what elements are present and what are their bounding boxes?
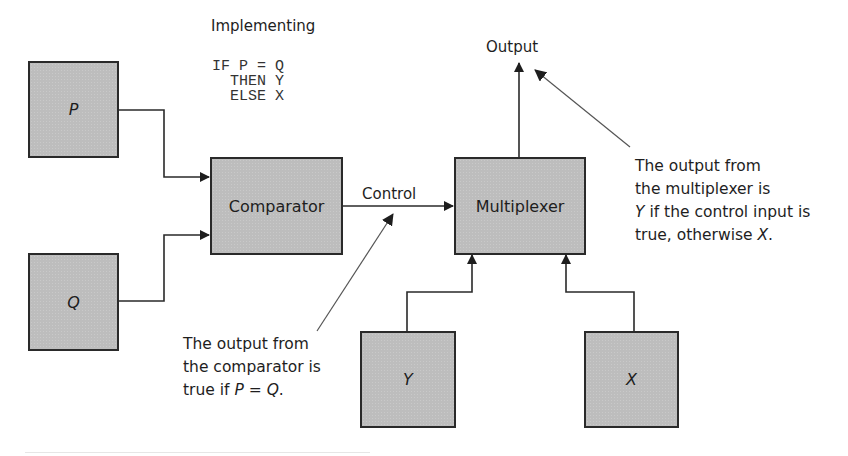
bottom-rule	[25, 452, 370, 453]
input-y-label: Y	[403, 370, 413, 389]
control-signal-label: Control	[362, 185, 416, 203]
pseudocode-line-2: THEN Y	[212, 74, 284, 89]
input-p-box: P	[28, 61, 119, 158]
wire-q-to-comparator	[118, 235, 209, 301]
comparator-note-expr: P = Q	[234, 381, 278, 399]
multiplexer-note-line-3-rest: if the control input is	[644, 203, 810, 221]
input-p-label: P	[69, 100, 79, 119]
comparator-label: Comparator	[229, 197, 325, 216]
comparator-box: Comparator	[210, 157, 343, 255]
implementing-title: Implementing	[211, 17, 315, 35]
multiplexer-note-var-x: X	[757, 226, 768, 244]
multiplexer-note-line-2: the multiplexer is	[635, 180, 770, 198]
input-x-label: X	[626, 370, 637, 389]
pseudocode-line-3: ELSE X	[212, 89, 284, 104]
comparator-note-line-1: The output from	[183, 335, 309, 353]
comparator-note-line-2: the comparator is	[183, 358, 321, 376]
wire-p-to-comparator	[118, 110, 209, 177]
wire-x-to-multiplexer	[566, 255, 634, 331]
input-y-box: Y	[360, 331, 456, 428]
multiplexer-note-line-4-suffix: .	[768, 226, 773, 244]
multiplexer-box: Multiplexer	[454, 157, 586, 255]
output-signal-label: Output	[486, 38, 538, 56]
input-q-label: Q	[67, 293, 80, 312]
input-x-box: X	[584, 331, 679, 428]
comparator-note-line-3-prefix: true if	[183, 381, 234, 399]
wire-y-to-multiplexer	[407, 255, 472, 331]
multiplexer-note: The output from the multiplexer is Y if …	[635, 155, 810, 247]
multiplexer-note-line-1: The output from	[635, 157, 761, 175]
comparator-note-line-3-suffix: .	[279, 381, 284, 399]
multiplexer-label: Multiplexer	[476, 197, 565, 216]
comparator-note: The output from the comparator is true i…	[183, 333, 321, 402]
multiplexer-note-leader	[535, 70, 630, 147]
input-q-box: Q	[28, 253, 119, 351]
pseudocode-line-1: IF P = Q	[212, 59, 284, 74]
multiplexer-note-line-4-prefix: true, otherwise	[635, 226, 757, 244]
